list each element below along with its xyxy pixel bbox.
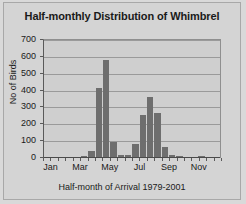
x-axis-labels: JanMarMayJulSepNov (43, 162, 221, 176)
bar[interactable] (103, 60, 109, 157)
x-axis-tick-mark (43, 158, 44, 161)
bar-slot (213, 39, 220, 157)
x-axis-tick-mark (110, 158, 111, 161)
bar-slot (103, 39, 110, 157)
y-axis-title: No of Birds (8, 50, 18, 114)
y-axis-tick-label: 400 (21, 85, 36, 95)
x-axis-tick-mark (177, 158, 178, 161)
x-axis-tick-mark (199, 158, 200, 161)
x-axis-tick-label: May (101, 162, 118, 172)
x-axis-tick-mark (154, 158, 155, 161)
bar-slot (44, 39, 51, 157)
bar-slot (73, 39, 80, 157)
y-axis-tick-label: 100 (21, 135, 36, 145)
x-axis-tick-mark (125, 158, 126, 161)
chart-frame: Half-monthly Distribution of Whimbrel No… (3, 2, 241, 200)
bar-slot (132, 39, 139, 157)
x-axis-tick-label: Sep (161, 162, 177, 172)
bar[interactable] (147, 97, 153, 157)
x-axis-tick-mark (214, 158, 215, 161)
x-axis-tick-mark (80, 158, 81, 161)
bar-slot (147, 39, 154, 157)
x-axis-tick-mark (139, 158, 140, 161)
plot-area (43, 39, 221, 158)
y-axis-tick-label: 600 (21, 51, 36, 61)
bar-slot (139, 39, 146, 157)
bar-slot (191, 39, 198, 157)
x-axis-tick-mark (221, 158, 222, 161)
x-axis-tick-label: Nov (191, 162, 207, 172)
x-axis-tick-mark (65, 158, 66, 161)
x-axis-tick-mark (184, 158, 185, 161)
x-axis-tick-label: Jan (43, 162, 58, 172)
bar[interactable] (96, 88, 102, 157)
bar-slot (169, 39, 176, 157)
bar-slot (59, 39, 66, 157)
bar-slot (125, 39, 132, 157)
x-axis-tick-mark (117, 158, 118, 161)
x-axis-tick-mark (191, 158, 192, 161)
x-axis-tick-mark (102, 158, 103, 161)
x-axis-tick-mark (50, 158, 51, 161)
bar-slot (110, 39, 117, 157)
x-axis-tick-mark (58, 158, 59, 161)
bar[interactable] (132, 144, 138, 157)
x-axis-tick-mark (73, 158, 74, 161)
bar[interactable] (154, 113, 160, 157)
y-axis-tick-label: 300 (21, 101, 36, 111)
bar-series (44, 39, 220, 157)
y-axis-tick-label: 200 (21, 118, 36, 128)
x-axis-tick-label: Mar (72, 162, 88, 172)
bar-slot (176, 39, 183, 157)
bar[interactable] (140, 115, 146, 157)
bar-slot (154, 39, 161, 157)
x-axis-tick-mark (169, 158, 170, 161)
chart-title: Half-monthly Distribution of Whimbrel (4, 10, 240, 22)
bar-slot (88, 39, 95, 157)
bar-slot (117, 39, 124, 157)
x-axis-title: Half-month of Arrival 1979-2001 (4, 182, 240, 192)
x-axis-tick-mark (88, 158, 89, 161)
bar-slot (95, 39, 102, 157)
bar-slot (205, 39, 212, 157)
bar-slot (183, 39, 190, 157)
x-axis-tick-mark (132, 158, 133, 161)
x-axis-tick-mark (206, 158, 207, 161)
bar[interactable] (110, 142, 116, 157)
bar-slot (51, 39, 58, 157)
x-axis-tick-label: Jul (134, 162, 146, 172)
bar-slot (161, 39, 168, 157)
y-axis-tick-label: 700 (21, 34, 36, 44)
y-axis-tick-label: 500 (21, 68, 36, 78)
x-axis-tick-mark (162, 158, 163, 161)
bar-slot (198, 39, 205, 157)
bar-slot (81, 39, 88, 157)
bar[interactable] (162, 147, 168, 157)
y-axis-tick-label: 0 (31, 152, 36, 162)
bar-slot (66, 39, 73, 157)
x-axis-tick-mark (95, 158, 96, 161)
x-axis-tick-mark (147, 158, 148, 161)
